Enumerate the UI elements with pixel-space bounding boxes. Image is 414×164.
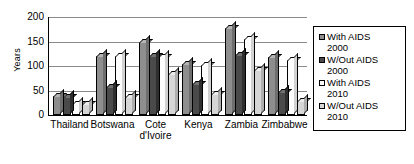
bar-side-face (275, 50, 279, 114)
legend-item[interactable]: W/Out AIDS 2000 (319, 55, 405, 76)
bar-side-face (122, 49, 126, 114)
bar-side-face (251, 32, 255, 114)
bar-side-face (70, 90, 74, 114)
y-tick-label-200: 200 (16, 13, 44, 21)
bar (96, 56, 104, 115)
bar-side-face (294, 53, 298, 114)
bar-group (49, 17, 92, 115)
bar-group (178, 17, 221, 115)
legend-label: With AIDS 2010 (327, 78, 370, 99)
bar-side-face (189, 57, 193, 114)
y-axis: 050100150200 (14, 0, 44, 164)
plot-area (48, 17, 307, 116)
y-tick-label-100: 100 (16, 62, 44, 70)
bar-side-face (218, 87, 222, 114)
bar-side-face (132, 90, 136, 114)
bar-side-face (146, 35, 150, 114)
bar-chart: Years 050100150200 ThailandBotswanaCote … (0, 0, 414, 164)
bar-side-face (208, 58, 212, 114)
legend-swatch-icon (319, 57, 325, 63)
legend-item[interactable]: W/Out AIDS 2010 (319, 101, 405, 122)
bar-side-face (242, 48, 246, 114)
bar-group (135, 17, 178, 115)
bar-side-face (304, 94, 308, 114)
legend-item[interactable]: With AIDS 2010 (319, 78, 405, 99)
legend-label: With AIDS 2000 (327, 32, 370, 53)
y-tick-label-0: 0 (16, 111, 44, 119)
legend-label: W/Out AIDS 2000 (327, 55, 378, 76)
bar-side-face (113, 80, 117, 114)
bar-side-face (285, 85, 289, 114)
legend-swatch-icon (319, 103, 325, 109)
bar-side-face (103, 49, 107, 114)
bar (139, 42, 147, 115)
x-label-zimbabwe: Zimbabwe (257, 119, 312, 130)
legend-swatch-icon (319, 34, 325, 40)
bar-side-face (199, 77, 203, 114)
bar (182, 64, 190, 115)
bar-group (264, 17, 307, 115)
y-tick-label-150: 150 (16, 38, 44, 46)
chart-legend: With AIDS 2000W/Out AIDS 2000With AIDS 2… (313, 26, 406, 131)
bar-side-face (175, 67, 179, 114)
bar-group (92, 17, 135, 115)
bar (225, 28, 233, 115)
legend-label: W/Out AIDS 2010 (327, 101, 378, 122)
bar-side-face (261, 63, 265, 114)
legend-item[interactable]: With AIDS 2000 (319, 32, 405, 53)
bar (268, 57, 276, 115)
bar-group (221, 17, 264, 115)
bar (53, 96, 61, 115)
bar-side-face (232, 21, 236, 114)
bar-side-face (156, 49, 160, 114)
bar-side-face (165, 50, 169, 114)
y-tick-label-50: 50 (16, 87, 44, 95)
legend-swatch-icon (319, 80, 325, 86)
